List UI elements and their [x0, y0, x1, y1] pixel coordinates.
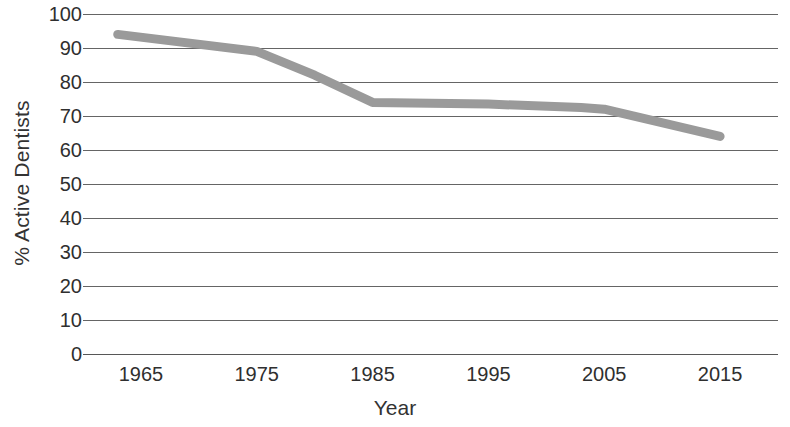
x-tick-label-1985: 1985 — [350, 362, 395, 386]
y-tick-label-80: 80 — [60, 72, 82, 92]
y-tick-label-10: 10 — [60, 310, 82, 330]
y-tick-label-60: 60 — [60, 140, 82, 160]
plot-area — [83, 14, 778, 354]
line-chart: % Active Dentists 1009080706050403020100… — [0, 0, 790, 427]
y-tick-label-70: 70 — [60, 106, 82, 126]
x-tick-label-1965: 1965 — [119, 362, 164, 386]
series-line-active-dentists — [83, 14, 778, 354]
x-tick-label-1995: 1995 — [466, 362, 511, 386]
y-tick-label-30: 30 — [60, 242, 82, 262]
x-axis-tick-labels: 196519751985199520052015 — [0, 362, 790, 392]
y-tick-label-20: 20 — [60, 276, 82, 296]
x-axis-title: Year — [0, 396, 790, 420]
x-tick-label-1975: 1975 — [235, 362, 280, 386]
gridline-0 — [83, 354, 778, 355]
y-tick-label-100: 100 — [49, 4, 82, 24]
y-tick-label-50: 50 — [60, 174, 82, 194]
x-tick-label-2015: 2015 — [698, 362, 743, 386]
y-tick-label-40: 40 — [60, 208, 82, 228]
y-tick-label-0: 0 — [71, 344, 82, 364]
x-tick-label-2005: 2005 — [582, 362, 627, 386]
y-tick-label-90: 90 — [60, 38, 82, 58]
